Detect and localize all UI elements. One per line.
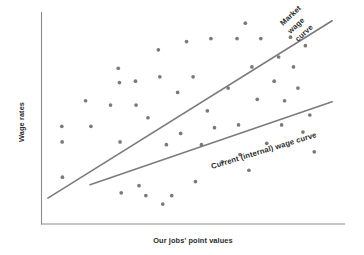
data-point	[161, 202, 165, 206]
data-point	[118, 81, 122, 85]
data-point	[137, 184, 141, 188]
data-point	[206, 109, 210, 113]
y-axis-title: Wage rates	[17, 102, 26, 142]
data-point	[109, 103, 113, 107]
data-point	[61, 175, 65, 179]
data-point	[247, 168, 251, 172]
data-point	[119, 191, 123, 195]
data-point	[165, 143, 169, 147]
data-point	[116, 66, 120, 70]
data-point	[296, 86, 300, 90]
chart-axes	[41, 12, 345, 225]
data-point	[235, 37, 239, 41]
data-point	[170, 194, 174, 198]
data-point	[118, 140, 122, 144]
data-point	[213, 126, 217, 130]
data-point	[144, 194, 148, 198]
data-point	[176, 91, 180, 95]
data-point	[280, 123, 284, 127]
data-point	[244, 21, 248, 25]
data-point	[237, 123, 241, 127]
data-point	[89, 124, 93, 128]
data-point	[272, 79, 276, 83]
data-point	[255, 98, 259, 102]
internal-wage-curve-label-text: Current (internal) wage curve	[210, 130, 318, 171]
data-point	[289, 35, 293, 39]
wage-curve-chart-figure: Market wage curve Current (internal) wag…	[0, 0, 364, 255]
data-point	[191, 75, 195, 79]
trend-line	[48, 21, 332, 198]
data-point	[179, 132, 183, 136]
data-point	[146, 116, 150, 120]
y-axis-title-group: Wage rates	[17, 102, 26, 142]
scatter-points-group	[60, 21, 316, 206]
data-point	[134, 79, 138, 83]
data-point	[60, 140, 64, 144]
data-point	[158, 75, 162, 79]
data-point	[134, 103, 138, 107]
x-axis-title: Our jobs' point values	[153, 236, 233, 245]
data-point	[304, 44, 308, 48]
data-point	[84, 99, 88, 103]
data-point	[312, 150, 316, 154]
data-point	[60, 124, 64, 128]
data-point	[283, 99, 287, 103]
data-point	[250, 65, 254, 69]
data-point	[308, 113, 312, 117]
data-point	[194, 180, 198, 184]
scatter-plot-canvas: Market wage curve Current (internal) wag…	[0, 0, 364, 255]
data-point	[259, 37, 263, 41]
data-point	[156, 48, 160, 52]
data-point	[209, 37, 213, 41]
data-point	[292, 65, 296, 69]
market-wage-curve-label: Market wage curve	[277, 3, 318, 44]
internal-wage-curve-label: Current (internal) wage curve	[210, 130, 318, 171]
trend-lines-group	[48, 21, 332, 198]
data-point	[185, 40, 189, 44]
